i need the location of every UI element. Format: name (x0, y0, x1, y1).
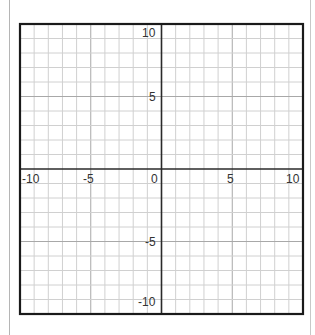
page-edge-left (9, 0, 10, 335)
y-tick-label-neg5: -5 (145, 236, 156, 248)
grid (20, 24, 303, 314)
x-tick-label-10: 10 (286, 173, 299, 185)
y-tick-label-10: 10 (142, 27, 155, 39)
y-tick-label-neg10: -10 (138, 296, 155, 308)
page-edge-right (310, 0, 311, 335)
x-tick-label-5: 5 (227, 173, 234, 185)
x-tick-label-neg5: -5 (83, 173, 94, 185)
coordinate-plane: -10 -5 0 5 10 10 5 -5 -10 (20, 24, 303, 314)
x-tick-label-0: 0 (151, 173, 158, 185)
y-tick-label-5: 5 (149, 91, 156, 103)
x-tick-label-neg10: -10 (22, 173, 39, 185)
